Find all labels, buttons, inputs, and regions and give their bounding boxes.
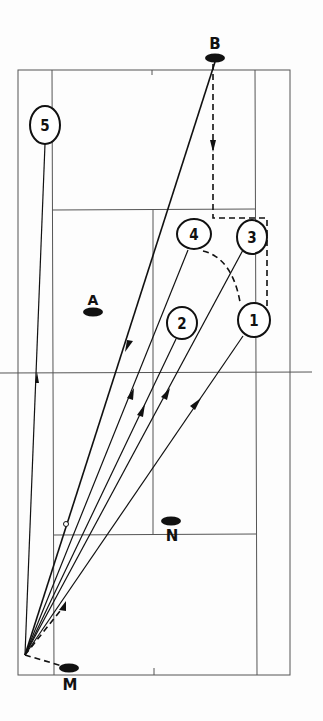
court-diagram: 5 4 3 2 1 B A N M: [0, 0, 323, 721]
position-markers: [30, 106, 270, 339]
arrow-shot-4: [127, 388, 134, 400]
court-svg: 5 4 3 2 1 B A N M: [0, 0, 323, 721]
position-2-label: 2: [177, 315, 186, 333]
position-4-label: 4: [189, 226, 198, 244]
player-m-marker: [59, 664, 79, 673]
movement-paths: [25, 64, 267, 668]
player-b-marker: [205, 54, 225, 63]
shuttle-contact-point-marker: [64, 522, 69, 527]
player-a-marker: [83, 308, 103, 317]
position-5-label: 5: [40, 117, 49, 135]
arrow-down-b-shot: [125, 340, 133, 352]
player-b-label: B: [209, 35, 220, 53]
arrow-shot-1: [190, 398, 201, 410]
top-short-service-line: [52, 209, 255, 210]
bottom-short-service-line: [54, 534, 256, 535]
arrowheads: [35, 340, 201, 417]
position-3-label: 3: [247, 229, 256, 247]
player-a-label: A: [88, 292, 99, 308]
player-m-label: M: [63, 676, 78, 694]
shot-to-3: [25, 250, 243, 655]
player-n-label: N: [166, 527, 179, 545]
net-line: [0, 372, 312, 373]
arrow-shot-3: [161, 388, 170, 400]
shot-to-5: [25, 144, 45, 655]
arrow-shot-2: [137, 404, 145, 417]
arrow-down-b-movement: [210, 140, 216, 152]
shot-b-to-origin: [25, 62, 215, 655]
court-lines: [0, 70, 312, 675]
shot-lines: [25, 62, 243, 655]
player-n-marker: [161, 517, 181, 526]
position-1-label: 1: [249, 312, 258, 330]
movement-b-to-3-to-1: [213, 64, 267, 308]
movement-arc-4-to-1: [203, 251, 240, 302]
arrow-forward-movement: [59, 601, 66, 611]
